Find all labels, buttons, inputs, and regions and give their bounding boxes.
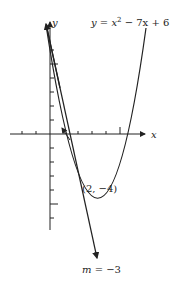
x-axis-label: x (151, 129, 157, 140)
y-axis-label: y (51, 17, 58, 28)
point-label: (2, −4) (82, 183, 117, 194)
slope-label: m = −3 (82, 264, 121, 275)
x-axis-ticks (22, 127, 120, 134)
parabola-curve (46, 25, 146, 198)
graph-figure: y x y = x2 − 7x + 6 (2, −4) m = −3 (0, 0, 173, 284)
equation-label: y = x2 − 7x + 6 (90, 16, 169, 28)
